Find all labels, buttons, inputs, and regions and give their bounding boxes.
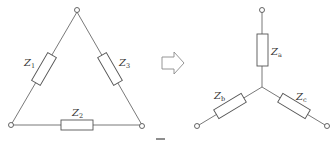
resistor-z1: [32, 53, 57, 86]
delta-node-bottom-right: [140, 124, 145, 129]
resistor-za: [257, 34, 268, 66]
delta-network: Z1 Z3 Z2: [9, 8, 145, 131]
label-z3: Z3: [118, 57, 130, 70]
delta-node-bottom-left: [9, 123, 14, 128]
right-arrow-icon: [162, 52, 184, 74]
star-node-bottom-right: [325, 124, 330, 129]
transform-arrow: [162, 52, 184, 74]
resistor-z2: [61, 120, 93, 130]
star-node-bottom-left: [195, 124, 200, 129]
label-z1: Z1: [23, 57, 35, 70]
delta-node-top: [75, 8, 80, 13]
star-network: Za Zb Zc: [195, 8, 330, 129]
label-za: Za: [270, 46, 282, 59]
star-node-top: [260, 8, 265, 13]
label-zb: Zb: [213, 90, 225, 103]
label-z2: Z2: [71, 107, 83, 120]
delta-star-diagram: Z1 Z3 Z2 Za Zb: [0, 0, 333, 141]
